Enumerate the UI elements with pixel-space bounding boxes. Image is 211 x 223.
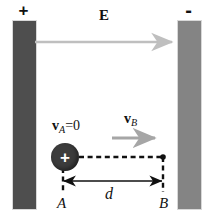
- point-charge: +: [51, 143, 79, 171]
- negative-plate: [177, 20, 202, 210]
- negative-plate-polarity-label: -: [177, 0, 200, 20]
- final-velocity-subscript: B: [131, 117, 137, 128]
- point-b-label: B: [159, 196, 168, 211]
- final-velocity-symbol: v: [124, 111, 131, 126]
- initial-velocity-label: vA=0: [52, 119, 80, 135]
- physics-figure-capacitor: + -: [0, 0, 211, 223]
- positive-plate: [12, 20, 37, 210]
- point-a-label: A: [57, 196, 66, 211]
- trajectory-dashed-line: [79, 154, 166, 160]
- electric-field-label: E: [99, 8, 109, 23]
- point-charge-sign-label: +: [51, 143, 79, 171]
- distance-label: d: [105, 186, 113, 202]
- initial-velocity-value: =0: [65, 118, 80, 133]
- final-velocity-label: vB: [124, 112, 137, 128]
- positive-plate-polarity-label: +: [12, 2, 35, 19]
- initial-velocity-symbol: v: [52, 118, 59, 133]
